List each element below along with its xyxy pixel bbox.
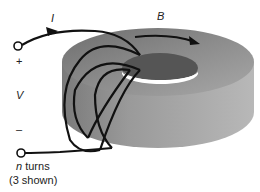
- terminal-plus: [14, 42, 22, 50]
- label-shown: (3 shown): [9, 175, 57, 186]
- label-field: B: [157, 11, 164, 22]
- label-turns: n turns: [16, 161, 50, 172]
- label-current: I: [51, 13, 54, 24]
- terminal-minus: [17, 149, 25, 157]
- label-minus: –: [16, 124, 22, 135]
- turns-word: turns: [22, 160, 50, 172]
- label-voltage: V: [16, 90, 23, 101]
- label-plus: +: [16, 56, 22, 67]
- current-arrowhead-icon: [46, 27, 58, 36]
